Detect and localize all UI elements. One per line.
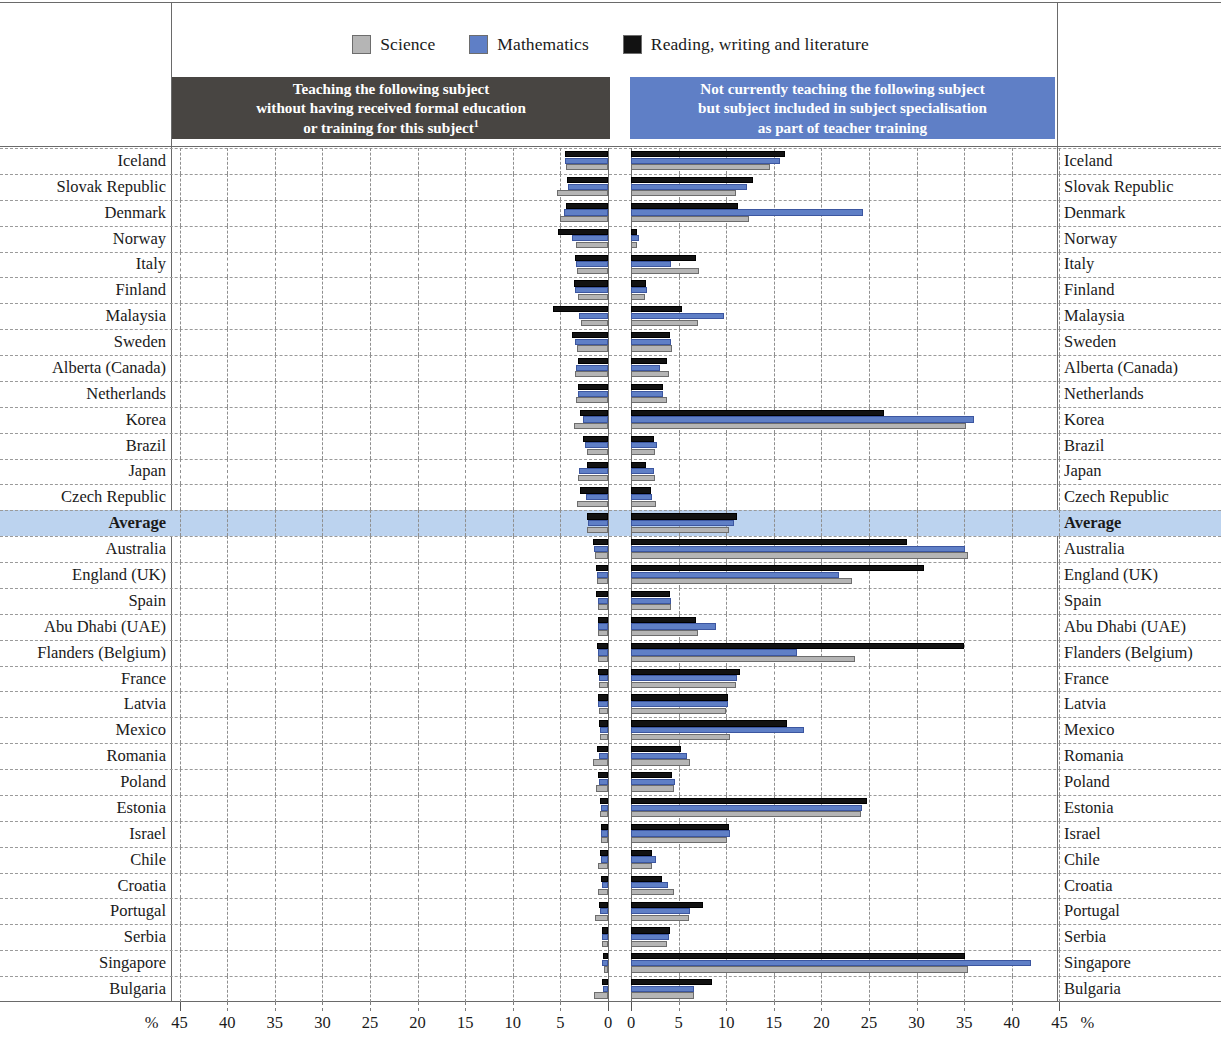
chart-row: CroatiaCroatia: [0, 873, 1221, 899]
bar-left-sci: [598, 889, 608, 895]
chart-row: SingaporeSingapore: [0, 950, 1221, 976]
bar-right-sci: [631, 708, 726, 714]
bar-left-mat: [579, 313, 608, 319]
chart-row: NetherlandsNetherlands: [0, 381, 1221, 407]
axis-zero-left: [608, 252, 609, 278]
gridline-left-20: [418, 924, 419, 950]
gridline-left-15: [465, 898, 466, 924]
bar-right-sci: [631, 734, 730, 740]
gridline-right-15: [774, 303, 775, 329]
gridline-right-30: [917, 898, 918, 924]
bar-right-mat: [631, 960, 1031, 966]
bar-left-read: [578, 358, 608, 364]
gridline-left-40: [227, 873, 228, 899]
gridline-right-30: [917, 329, 918, 355]
gridline-left-15: [465, 407, 466, 433]
gridline-right-35: [964, 691, 965, 717]
axis-zero-left: [608, 536, 609, 562]
bar-right-mat: [631, 572, 839, 578]
gridline-left-40: [227, 691, 228, 717]
chart-row: PortugalPortugal: [0, 898, 1221, 924]
gridline-right-40: [1012, 924, 1013, 950]
row-background: [0, 148, 1221, 174]
gridline-right-35: [964, 381, 965, 407]
gridline-left-10: [513, 226, 514, 252]
gridline-right-5: [679, 924, 680, 950]
gridline-left-5: [560, 562, 561, 588]
gridline-right-5: [679, 484, 680, 510]
bar-left-mat: [585, 442, 608, 448]
bar-left-read: [598, 694, 608, 700]
bar-right-read: [631, 177, 753, 183]
gridline-left-20: [418, 148, 419, 174]
bar-left-read: [602, 979, 608, 985]
gridline-left-30: [322, 976, 323, 1002]
gridline-right-40: [1012, 717, 1013, 743]
gridline-right-20: [821, 433, 822, 459]
gridline-right-45: [1059, 407, 1060, 433]
gridline-left-5: [560, 640, 561, 666]
gridline-left-10: [513, 459, 514, 485]
row-background: [0, 976, 1221, 1002]
gridline-right-15: [774, 174, 775, 200]
gridline-left-5: [560, 407, 561, 433]
gridline-left-15: [465, 562, 466, 588]
tick-label-right-5: 5: [674, 1013, 682, 1033]
chart-row: NorwayNorway: [0, 226, 1221, 252]
gridline-left-40: [227, 200, 228, 226]
row-label-left: Serbia: [0, 927, 166, 947]
bar-left-sci: [598, 863, 608, 869]
tick-label-left-0: 0: [604, 1013, 612, 1033]
gridline-left-30: [322, 950, 323, 976]
row-label-left: Australia: [0, 539, 166, 559]
chart-row: LatviaLatvia: [0, 691, 1221, 717]
bar-left-mat: [599, 675, 608, 681]
row-background: [0, 381, 1221, 407]
row-separator: [0, 433, 1221, 434]
gridline-left-10: [513, 252, 514, 278]
gridline-left-25: [370, 847, 371, 873]
gridline-left-45: [180, 743, 181, 769]
gridline-right-25: [869, 484, 870, 510]
tick-left-40: [227, 1002, 228, 1011]
axis-zero-left: [608, 510, 609, 536]
gridline-right-20: [821, 976, 822, 1002]
chart-row: Czech RepublicCzech Republic: [0, 484, 1221, 510]
row-label-right: Sweden: [1064, 332, 1219, 352]
bar-right-sci: [631, 242, 637, 248]
gridline-right-15: [774, 433, 775, 459]
row-label-right: France: [1064, 669, 1219, 689]
axis-zero-left: [608, 795, 609, 821]
bar-left-read: [587, 462, 608, 468]
gridline-left-30: [322, 433, 323, 459]
gridline-left-45: [180, 976, 181, 1002]
gridline-left-30: [322, 200, 323, 226]
gridline-left-25: [370, 407, 371, 433]
bar-left-read: [598, 669, 608, 675]
gridline-right-25: [869, 821, 870, 847]
gridline-right-25: [869, 433, 870, 459]
chart-row: RomaniaRomania: [0, 743, 1221, 769]
gridline-left-15: [465, 484, 466, 510]
gridline-left-10: [513, 174, 514, 200]
gridline-left-35: [275, 433, 276, 459]
gridline-right-45: [1059, 200, 1060, 226]
gridline-left-10: [513, 303, 514, 329]
gridline-right-35: [964, 847, 965, 873]
bar-left-read: [566, 203, 608, 209]
gridline-right-40: [1012, 873, 1013, 899]
gridline-left-25: [370, 898, 371, 924]
bar-left-mat: [568, 184, 608, 190]
gridline-left-35: [275, 821, 276, 847]
tick-label-left-20: 20: [409, 1013, 426, 1033]
gridline-left-45: [180, 588, 181, 614]
gridline-right-40: [1012, 743, 1013, 769]
gridline-left-30: [322, 303, 323, 329]
chart-row: Flanders (Belgium)Flanders (Belgium): [0, 640, 1221, 666]
gridline-left-45: [180, 459, 181, 485]
gridline-right-40: [1012, 329, 1013, 355]
bar-left-mat: [602, 960, 608, 966]
gridline-left-20: [418, 433, 419, 459]
axis-zero-left: [608, 769, 609, 795]
tick-label-right-0: 0: [627, 1013, 635, 1033]
